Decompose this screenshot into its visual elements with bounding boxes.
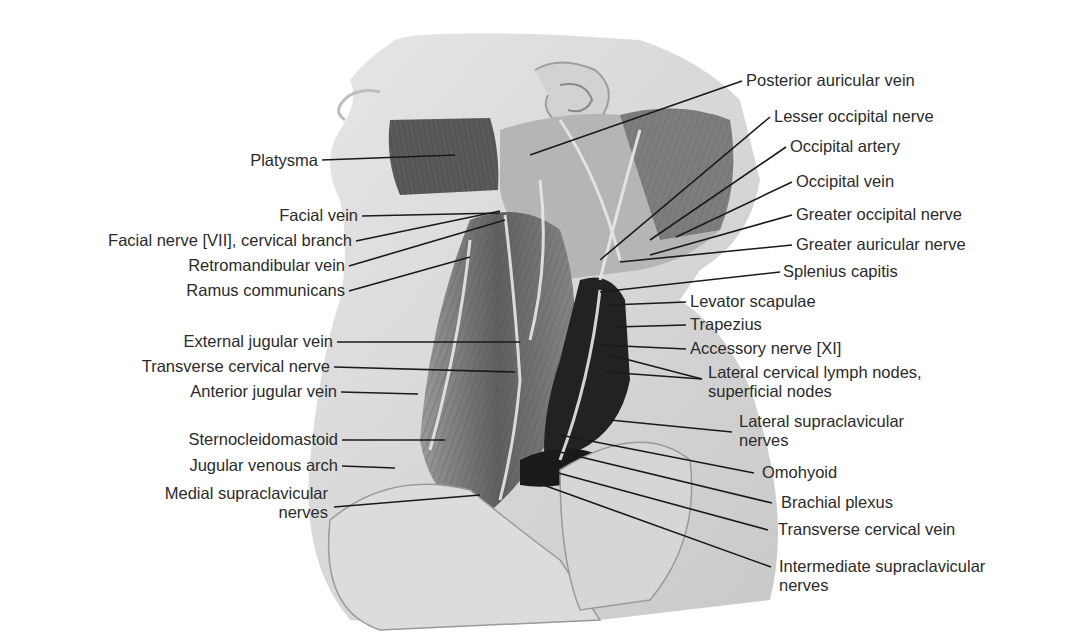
- label-omohyoid: Omohyoid: [762, 463, 837, 482]
- label-lesser-occipital-nerve: Lesser occipital nerve: [774, 107, 934, 126]
- label-facial-vein: Facial vein: [279, 206, 358, 225]
- label-retromandibular-vein: Retromandibular vein: [188, 256, 345, 275]
- anatomy-illustration: [0, 0, 1081, 644]
- label-line-1: Lateral supraclavicular: [739, 412, 904, 431]
- label-external-jugular-vein: External jugular vein: [184, 332, 334, 351]
- neck-anatomy-figure: Platysma Facial vein Facial nerve [VII],…: [0, 0, 1081, 644]
- label-transverse-cervical-vein: Transverse cervical vein: [778, 520, 955, 539]
- label-lateral-supraclavicular-nerves: Lateral supraclavicular nerves: [739, 412, 904, 450]
- label-levator-scapulae: Levator scapulae: [690, 292, 816, 311]
- label-greater-auricular-nerve: Greater auricular nerve: [796, 235, 966, 254]
- label-ramus-communicans: Ramus communicans: [186, 281, 345, 300]
- label-transverse-cervical-nerve: Transverse cervical nerve: [142, 357, 330, 376]
- label-sternocleidomastoid: Sternocleidomastoid: [189, 430, 339, 449]
- label-line-1: Medial supraclavicular: [165, 484, 328, 503]
- label-splenius-capitis: Splenius capitis: [783, 262, 898, 281]
- label-occipital-artery: Occipital artery: [790, 137, 900, 156]
- label-medial-supraclavicular-nerves: Medial supraclavicular nerves: [165, 484, 328, 522]
- label-jugular-venous-arch: Jugular venous arch: [189, 456, 338, 475]
- label-line-2: nerves: [739, 431, 904, 450]
- label-posterior-auricular-vein: Posterior auricular vein: [746, 71, 915, 90]
- label-occipital-vein: Occipital vein: [796, 172, 894, 191]
- label-accessory-nerve: Accessory nerve [XI]: [690, 339, 841, 358]
- label-facial-nerve-cervical-branch: Facial nerve [VII], cervical branch: [108, 231, 352, 250]
- label-intermediate-supraclavicular-nerves: Intermediate supraclavicular nerves: [779, 557, 985, 595]
- label-line-2: superficial nodes: [708, 382, 922, 401]
- label-lateral-cervical-lymph-nodes: Lateral cervical lymph nodes, superficia…: [708, 363, 922, 401]
- label-anterior-jugular-vein: Anterior jugular vein: [190, 382, 337, 401]
- label-line-1: Lateral cervical lymph nodes,: [708, 363, 922, 382]
- label-greater-occipital-nerve: Greater occipital nerve: [796, 205, 962, 224]
- label-line-2: nerves: [779, 576, 985, 595]
- label-line-2: nerves: [165, 503, 328, 522]
- label-trapezius: Trapezius: [690, 315, 762, 334]
- label-platysma: Platysma: [250, 151, 318, 170]
- label-brachial-plexus: Brachial plexus: [781, 493, 893, 512]
- label-line-1: Intermediate supraclavicular: [779, 557, 985, 576]
